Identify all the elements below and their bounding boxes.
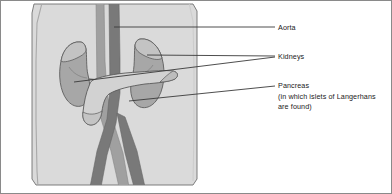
label-aorta: Aorta bbox=[278, 23, 296, 34]
label-aorta-text: Aorta bbox=[278, 23, 296, 32]
label-pancreas-text: Pancreas bbox=[278, 81, 376, 92]
label-kidneys: Kidneys bbox=[278, 52, 304, 63]
label-pancreas-note-line-1: (in which islets of Langerhans bbox=[278, 92, 376, 103]
anatomy-figure: Aorta Kidneys Pancreas (in which islets … bbox=[0, 0, 392, 194]
label-pancreas-note-line-2: are found) bbox=[278, 102, 376, 113]
label-pancreas: Pancreas (in which islets of Langerhans … bbox=[278, 81, 376, 113]
label-kidneys-text: Kidneys bbox=[278, 52, 304, 61]
